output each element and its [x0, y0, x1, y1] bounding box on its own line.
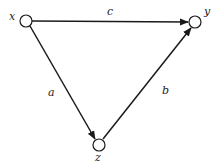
- edge-z-to-y: [103, 28, 191, 139]
- graph-canvas: x y z c a b: [0, 0, 218, 166]
- edge-label-a: a: [48, 86, 55, 99]
- edge-x-to-z: [30, 26, 95, 139]
- node-y: [189, 16, 201, 28]
- node-label-y: y: [203, 5, 211, 18]
- node-z: [93, 139, 105, 151]
- node-label-z: z: [94, 151, 101, 164]
- edge-label-c: c: [107, 5, 113, 18]
- node-x: [20, 15, 32, 27]
- edge-x-to-y: [32, 21, 188, 22]
- node-label-x: x: [9, 10, 16, 23]
- edge-label-b: b: [162, 84, 169, 97]
